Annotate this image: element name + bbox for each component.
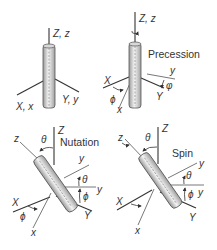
x-axis-line	[33, 193, 51, 228]
label-theta-right: θ	[82, 174, 88, 185]
x-axis-line	[138, 189, 154, 225]
label-theta-top: θ	[41, 134, 47, 145]
label-x: x	[134, 225, 141, 236]
label-z: z	[117, 132, 123, 143]
label-z-axis: Z, z	[138, 13, 156, 24]
label-x: x	[116, 104, 123, 115]
theta-arc-top	[40, 147, 53, 151]
label-X: X	[11, 197, 19, 208]
theta-arc-top	[143, 147, 157, 151]
phi-arc-right	[185, 188, 186, 201]
label-phi-right: ϕ	[83, 191, 89, 202]
y-axis-line	[168, 163, 197, 178]
label-z: z	[13, 133, 19, 144]
label-Z: Z	[57, 125, 65, 136]
label-x-axis: X, x	[15, 101, 34, 112]
label-y2: y	[96, 184, 103, 195]
label-Z: Z	[161, 123, 169, 134]
x-axis-line	[17, 80, 45, 95]
label-angle-phi-y: φ	[166, 80, 173, 91]
spin-rotation-arrow-icon	[122, 143, 129, 145]
panel-title-precession: Precession	[148, 48, 200, 60]
z-axis-line	[125, 139, 143, 158]
theta-arc-right	[184, 176, 185, 184]
label-x: x	[30, 227, 37, 238]
rod-cylinder	[129, 42, 141, 108]
label-theta-right: θ	[186, 170, 192, 181]
label-y: y	[78, 153, 85, 164]
label-Y: Y	[156, 91, 164, 102]
z-axis-line	[20, 142, 39, 160]
Y-axis-line	[141, 78, 164, 88]
label-y: y	[169, 65, 176, 76]
rod-cylinder	[137, 151, 183, 209]
panel-initial: Z, z X, x Y, y	[15, 28, 79, 112]
label-Y: Y	[189, 212, 197, 223]
label-phi-left: ϕ	[20, 211, 26, 222]
label-Y: Y	[84, 210, 92, 221]
rod-cylinder	[32, 154, 79, 213]
label-y: y	[198, 158, 205, 169]
label-y2: y	[197, 187, 204, 198]
label-X: X	[103, 75, 111, 86]
rod-cylinder	[43, 44, 55, 108]
phi-arc-y	[162, 80, 164, 88]
phi-arc-x	[113, 87, 123, 90]
y-axis-line	[55, 79, 79, 92]
label-X: X	[115, 196, 123, 207]
euler-angles-figure: Z, z X, x Y, y Z, z Precession X ϕ x y φ…	[0, 0, 217, 250]
panel-precession: Z, z Precession X ϕ x y φ Y	[103, 12, 200, 115]
phi-arc-left	[28, 206, 37, 209]
label-phi-right: ϕ	[188, 189, 194, 200]
label-z-axis: Z, z	[52, 28, 70, 39]
phi-arc-right	[80, 189, 81, 203]
panel-title-spin: Spin	[172, 147, 193, 159]
phi-arc-left	[131, 204, 141, 206]
theta-arc-right	[79, 177, 80, 186]
panel-title-nutation: Nutation	[60, 136, 99, 148]
panel-spin: Z z θ Spin y θ ϕ y X Y x	[115, 123, 205, 236]
label-y-axis: Y, y	[62, 94, 79, 105]
panel-nutation: Z z θ Nutation y θ y ϕ X ϕ Y x	[11, 125, 103, 238]
label-angle-phi-x: ϕ	[110, 94, 116, 105]
label-theta-top: θ	[145, 132, 151, 143]
